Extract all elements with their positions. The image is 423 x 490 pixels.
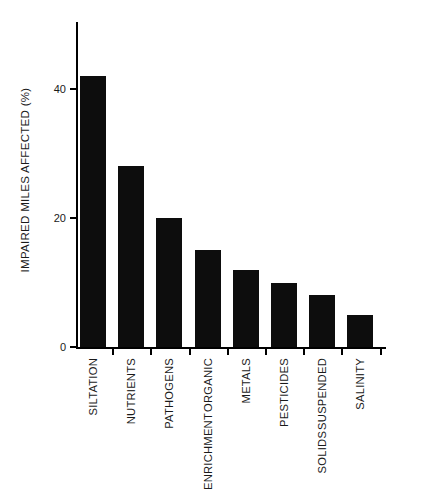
x-category-label-line: METALS (240, 358, 252, 403)
bar (195, 250, 221, 347)
x-tick-mark (265, 349, 267, 355)
y-tick-mark (70, 217, 77, 219)
y-tick-label: 0 (40, 341, 66, 353)
x-category-label-rotated: PESTICIDES (278, 358, 290, 427)
y-axis-line (76, 22, 78, 348)
x-tick-mark (150, 349, 152, 355)
x-category-label-line: PESTICIDES (278, 358, 290, 427)
x-category-label-rotated: METALS (240, 358, 252, 403)
x-category-label-rotated: SILTATION (87, 358, 99, 416)
x-tick-mark (341, 349, 343, 355)
y-tick-mark (70, 88, 77, 90)
y-axis-title: IMPAIRED MILES AFFECTED (%) (0, 0, 50, 360)
x-category-label-rotated: ORGANICENRICHMENT (202, 358, 214, 490)
x-tick-mark (189, 349, 191, 355)
x-category-label-rotated: SALINITY (354, 358, 366, 410)
bar (309, 295, 335, 347)
x-category-label-line: SILTATION (87, 358, 99, 416)
bar (347, 315, 373, 347)
x-category-label-line: SOLIDS (316, 431, 328, 474)
x-category-label-line: NUTRIENTS (125, 358, 137, 424)
bar (80, 76, 106, 347)
bar (271, 283, 297, 348)
x-category-label-rotated: SUSPENDEDSOLIDS (316, 358, 328, 473)
x-category-label-rotated: NUTRIENTS (125, 358, 137, 424)
x-category-label-line: SUSPENDED (316, 358, 328, 430)
x-tick-mark (227, 349, 229, 355)
x-tick-mark (380, 349, 382, 355)
x-tick-mark (303, 349, 305, 355)
y-tick-label: 40 (40, 83, 66, 95)
x-axis-line (76, 347, 386, 349)
bar (118, 166, 144, 347)
y-axis-title-text: IMPAIRED MILES AFFECTED (%) (19, 88, 31, 273)
x-tick-mark (112, 349, 114, 355)
x-category-label-line: SALINITY (354, 358, 366, 410)
y-tick-mark (70, 346, 77, 348)
x-category-label-line: PATHOGENS (163, 358, 175, 429)
x-category-label-rotated: PATHOGENS (163, 358, 175, 429)
x-category-label-line: ORGANIC (202, 358, 214, 412)
x-category-label-line: ENRICHMENT (202, 413, 214, 490)
bar (156, 218, 182, 347)
bar (233, 270, 259, 347)
y-tick-label: 20 (40, 212, 66, 224)
